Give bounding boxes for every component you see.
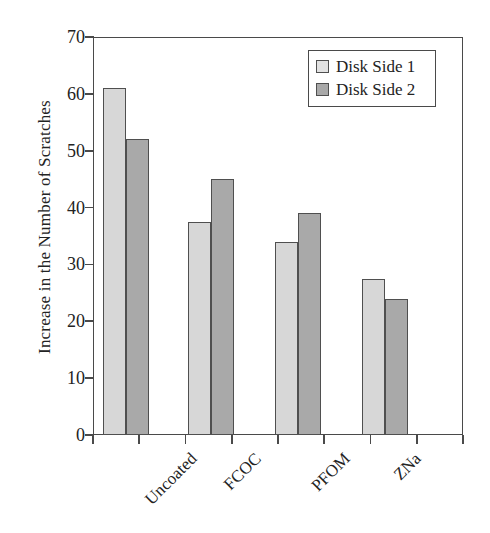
y-tick-mark [85,377,94,379]
x-tick-mark [277,435,279,444]
bar-zna-series-1 [362,279,385,435]
x-tick-mark [416,435,418,444]
x-tick-mark [185,435,187,444]
y-axis-tick-labels: 010203040506070 [45,0,85,533]
y-tick-label: 60 [49,85,85,103]
y-tick-label: 50 [49,142,85,160]
x-tick-mark [370,435,372,444]
y-tick-mark [85,150,94,152]
bar-fcoc-series-1 [188,222,211,435]
x-tick-mark [323,435,325,444]
chart-figure: Increase in the Number of Scratches 0102… [0,0,490,533]
y-tick-mark [85,320,94,322]
x-axis-label-zna: ZNa [390,449,426,485]
y-tick-label: 70 [49,28,85,46]
bar-pfom-series-1 [275,242,298,435]
y-tick-mark [85,264,94,266]
chart-legend: Disk Side 1 Disk Side 2 [308,50,436,107]
bar-fcoc-series-2 [211,179,234,435]
y-tick-mark [85,36,94,38]
legend-label-series-1: Disk Side 1 [336,58,415,75]
y-tick-label: 0 [49,426,85,444]
legend-swatch-series-2 [316,83,329,96]
y-tick-label: 40 [49,199,85,217]
x-axis-label-fcoc: FCOC [220,449,266,495]
x-axis-label-pfom: PFOM [308,449,355,496]
y-tick-mark [85,93,94,95]
legend-label-series-2: Disk Side 2 [336,81,415,98]
legend-swatch-series-1 [316,60,329,73]
x-axis-label-uncoated: Uncoated [141,449,201,509]
x-tick-mark [92,435,94,444]
y-tick-label: 20 [49,312,85,330]
x-tick-mark [231,435,233,444]
y-tick-mark [85,207,94,209]
y-tick-label: 10 [49,369,85,387]
legend-item-disk-side-2: Disk Side 2 [316,78,429,101]
legend-item-disk-side-1: Disk Side 1 [316,55,429,78]
x-tick-mark [138,435,140,444]
y-tick-label: 30 [49,255,85,273]
x-tick-mark [462,435,464,444]
bar-uncoated-series-2 [126,139,149,435]
bar-zna-series-2 [385,299,408,435]
bar-pfom-series-2 [298,213,321,435]
bar-uncoated-series-1 [103,88,126,435]
